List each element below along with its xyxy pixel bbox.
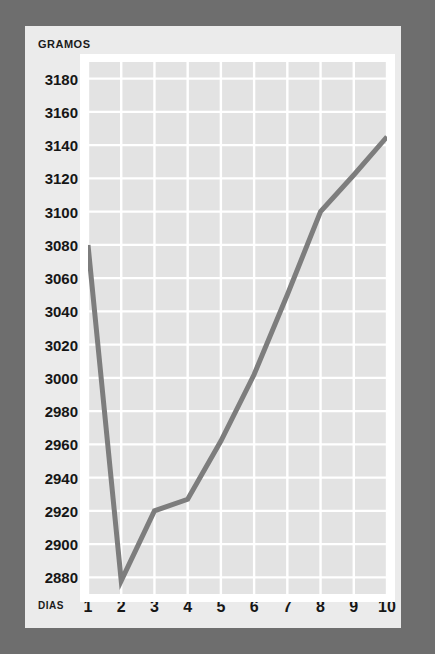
y-axis-tick-label: 2900 (26, 536, 78, 553)
y-axis-tick-label: 3140 (26, 137, 78, 154)
y-axis-tick-label: 3000 (26, 369, 78, 386)
y-axis-tick-label: 3060 (26, 270, 78, 287)
y-axis-tick-label: 2920 (26, 502, 78, 519)
y-axis-tick-labels: 3180316031403120310030803060304030203000… (25, 26, 78, 628)
y-axis-tick-label: 3080 (26, 236, 78, 253)
data-series-line (88, 62, 387, 594)
y-axis-tick-label: 3020 (26, 336, 78, 353)
y-axis-tick-label: 3160 (26, 103, 78, 120)
y-axis-tick-label: 3180 (26, 70, 78, 87)
chart-figure: GRAMOS DIAS 3180316031403120310030803060… (0, 0, 435, 654)
chart-card: GRAMOS DIAS 3180316031403120310030803060… (25, 26, 401, 628)
y-axis-tick-label: 3040 (26, 303, 78, 320)
y-axis-tick-label: 3120 (26, 170, 78, 187)
y-axis-tick-label: 2940 (26, 469, 78, 486)
y-axis-tick-label: 2880 (26, 569, 78, 586)
plot-frame (80, 54, 395, 602)
y-axis-tick-label: 2960 (26, 436, 78, 453)
y-axis-tick-label: 3100 (26, 203, 78, 220)
y-axis-tick-label: 2980 (26, 403, 78, 420)
plot-area (88, 62, 387, 594)
